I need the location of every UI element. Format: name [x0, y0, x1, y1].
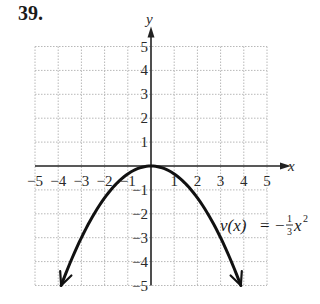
y-tick-label: −5	[132, 278, 148, 294]
y-tick-label: 2	[141, 110, 149, 126]
x-tick-label: 4	[240, 173, 248, 189]
y-tick-label: −4	[132, 254, 148, 270]
parabola-graph: −5−4−3−2−11234554321−1−2−3−4−5 y x v(x) …	[0, 0, 320, 304]
eq-sign: −	[275, 216, 285, 235]
y-tick-label: 4	[141, 62, 149, 78]
eq-exp: 2	[303, 213, 308, 224]
x-tick-label: −4	[50, 173, 66, 189]
x-tick-label: 3	[217, 173, 225, 189]
axes	[35, 27, 291, 286]
y-tick-label: −3	[132, 230, 148, 246]
x-tick-label: −5	[27, 173, 43, 189]
y-tick-label: 1	[141, 134, 149, 150]
x-tick-label: 5	[263, 173, 271, 189]
eq-equals: =	[260, 216, 270, 235]
y-tick-label: 3	[141, 86, 149, 102]
x-tick-label: 2	[194, 173, 202, 189]
eq-frac-den: 3	[287, 226, 292, 237]
eq-var: x	[293, 216, 302, 235]
y-axis-label: y	[144, 11, 153, 27]
x-tick-label: −3	[73, 173, 89, 189]
x-axis-label: x	[287, 158, 295, 174]
y-tick-label: −2	[132, 206, 148, 222]
y-axis-arrow-icon	[148, 27, 155, 38]
y-tick-label: −1	[132, 182, 148, 198]
y-tick-label: 5	[141, 39, 149, 55]
function-label: v(x) = − 1 3 x 2	[220, 213, 308, 237]
x-tick-label: −2	[97, 173, 113, 189]
svg-text:v(x): v(x)	[220, 216, 247, 235]
eq-lhs: v(x)	[220, 216, 247, 235]
eq-frac-num: 1	[287, 213, 292, 224]
